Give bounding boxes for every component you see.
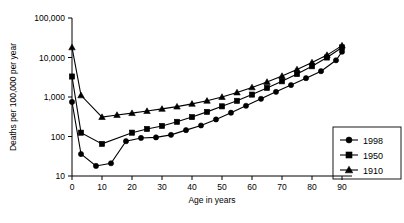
data-point-circle (288, 83, 293, 88)
mortality-by-age-chart: 100,00010,0001,00010010 Deaths per 100,0… (0, 0, 404, 223)
y-tick-label: 100,000 (34, 13, 65, 23)
x-tick-label: 50 (217, 182, 227, 192)
data-point-circle (258, 96, 263, 101)
data-point-square (99, 141, 104, 146)
legend-label: 1998 (363, 136, 383, 146)
data-point-square (294, 71, 299, 76)
data-point-circle (318, 69, 323, 74)
data-point-circle (273, 89, 278, 94)
data-point-square (264, 85, 269, 90)
data-point-square (78, 130, 83, 135)
data-point-circle (123, 139, 128, 144)
data-point-square (69, 74, 74, 79)
data-point-circle (153, 135, 158, 140)
data-point-square (144, 126, 149, 131)
y-tick-label: 1,000 (44, 92, 66, 102)
data-point-square (279, 79, 284, 84)
data-point-square (219, 104, 224, 109)
data-point-square (234, 98, 239, 103)
data-point-square (159, 123, 164, 128)
data-point-circle (108, 161, 113, 166)
data-point-circle (243, 103, 248, 108)
legend-label: 1950 (363, 151, 383, 161)
x-tick-label: 60 (247, 182, 257, 192)
data-point-circle (333, 58, 338, 63)
x-tick-label: 70 (277, 182, 287, 192)
y-tick-label: 10 (56, 171, 66, 181)
x-axis-title: Age in years (188, 195, 235, 205)
data-point-square (346, 152, 352, 158)
y-tick-label: 10,000 (39, 53, 65, 63)
data-point-square (189, 114, 194, 119)
x-tick-label: 80 (307, 182, 317, 192)
x-tick-label: 20 (127, 182, 137, 192)
data-point-circle (198, 123, 203, 128)
data-point-square (174, 119, 179, 124)
data-point-circle (78, 151, 83, 156)
x-tick-label: 30 (157, 182, 167, 192)
data-point-square (204, 109, 209, 114)
data-point-circle (93, 163, 98, 168)
x-tick-label: 0 (70, 182, 75, 192)
data-point-circle (228, 110, 233, 115)
x-tick-label: 90 (337, 182, 347, 192)
data-point-circle (168, 132, 173, 137)
x-tick-label: 10 (97, 182, 107, 192)
data-point-circle (138, 135, 143, 140)
data-point-circle (346, 137, 352, 143)
data-point-circle (303, 76, 308, 81)
x-tick-label: 40 (187, 182, 197, 192)
data-point-circle (69, 99, 74, 104)
data-point-square (249, 92, 254, 97)
legend-label: 1910 (363, 166, 383, 176)
y-tick-label: 100 (51, 132, 65, 142)
y-axis-title: Deaths per 100,000 per year (8, 43, 18, 151)
data-point-circle (183, 128, 188, 133)
data-point-circle (213, 117, 218, 122)
data-point-square (129, 130, 134, 135)
